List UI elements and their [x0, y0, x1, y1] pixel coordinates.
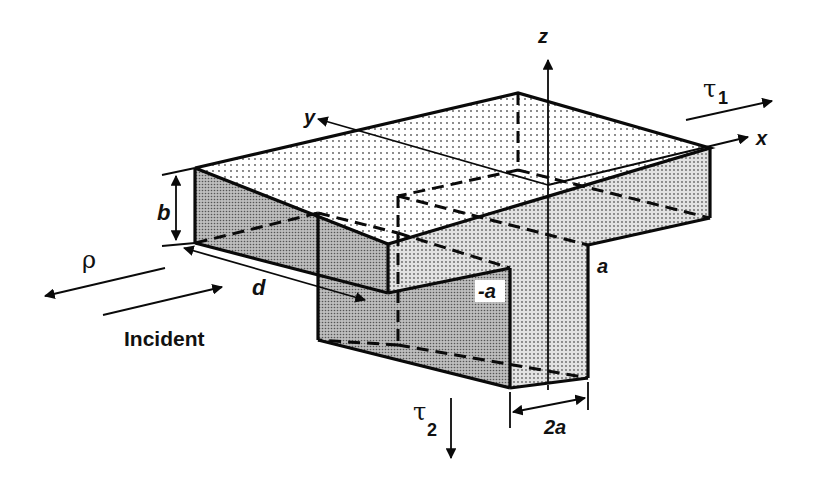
incident-wave-label: Incident — [124, 327, 205, 350]
transmitted-wave-1-label: τ — [703, 75, 716, 103]
dimension-b-label: b — [157, 200, 170, 225]
transmitted-wave-2-label: τ — [413, 398, 426, 426]
incident-wave-arrow — [103, 287, 222, 315]
z-axis-label: z — [537, 25, 548, 47]
dimension-d-label: d — [252, 275, 266, 300]
waveguide-diagram: z y x b d a -a 2a ρ Incident τ 1 τ 2 — [0, 0, 817, 484]
reflected-wave-label: ρ — [82, 246, 96, 274]
transmitted-wave-1-subscript: 1 — [718, 88, 728, 108]
transmitted-wave-1-arrow — [686, 101, 772, 120]
x-axis-label: x — [755, 127, 768, 149]
y-axis-label: y — [303, 106, 316, 128]
dimension-2a-label: 2a — [543, 416, 566, 438]
edge-a-label: a — [597, 255, 608, 277]
transmitted-wave-2-subscript: 2 — [427, 420, 437, 440]
reflected-wave-arrow — [45, 268, 165, 296]
edge-minus-a-label: -a — [478, 280, 496, 302]
